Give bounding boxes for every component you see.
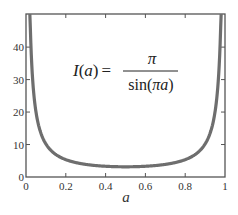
formula-lhs: I(a)=: [72, 61, 111, 80]
x-tick-label: 0.2: [59, 180, 73, 192]
plot-frame: [26, 14, 225, 177]
x-tick-label: 0.4: [99, 180, 113, 192]
x-tick-label: 0.8: [178, 180, 192, 192]
formula-denominator: sin(πa): [128, 76, 173, 94]
y-tick-label: 30: [13, 74, 25, 86]
y-tick-label: 20: [13, 106, 25, 118]
x-tick-label: 0: [23, 180, 29, 192]
y-tick-label: 0: [19, 171, 25, 183]
chart: 00.20.40.60.81 010203040 I(a)= π sin(πa)…: [0, 0, 238, 215]
y-tick-label: 10: [13, 139, 25, 151]
x-tick-label: 0.6: [139, 180, 153, 192]
y-tick-label: 40: [13, 41, 25, 53]
x-axis-label: a: [122, 189, 130, 205]
x-tick-label: 1: [222, 180, 228, 192]
formula-numerator: π: [148, 49, 157, 68]
